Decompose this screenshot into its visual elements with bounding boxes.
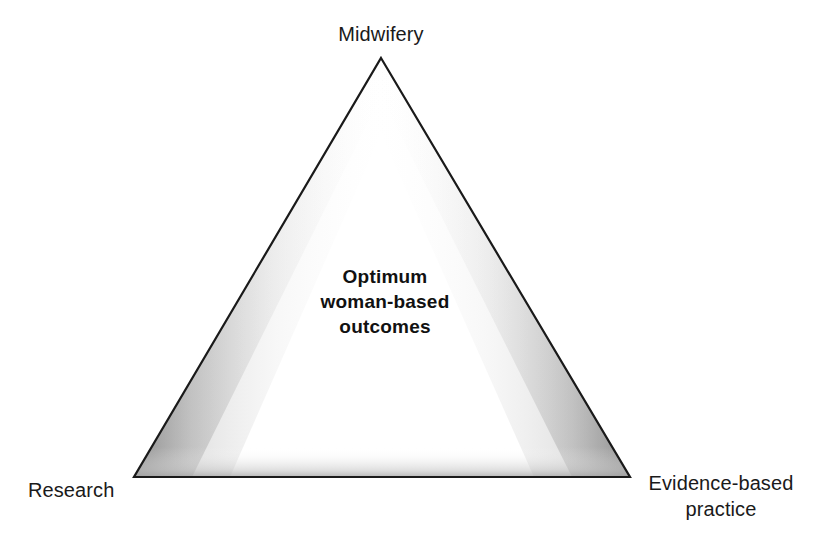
center-outcome-text: Optimum woman-based outcomes	[265, 264, 505, 339]
evidence-label-line-2: practice	[645, 496, 797, 522]
vertex-label-midwifery: Midwifery	[0, 22, 762, 47]
vertex-label-research: Research	[28, 478, 114, 503]
diagram-canvas: Midwifery Research Evidence-based practi…	[0, 0, 814, 542]
center-text-line-1: Optimum	[265, 264, 505, 289]
evidence-label-line-1: Evidence-based	[645, 470, 797, 496]
center-text-line-3: outcomes	[265, 314, 505, 339]
vertex-label-evidence-based-practice: Evidence-based practice	[645, 470, 797, 522]
center-text-line-2: woman-based	[265, 289, 505, 314]
bottom-edge-shadow	[120, 447, 644, 479]
